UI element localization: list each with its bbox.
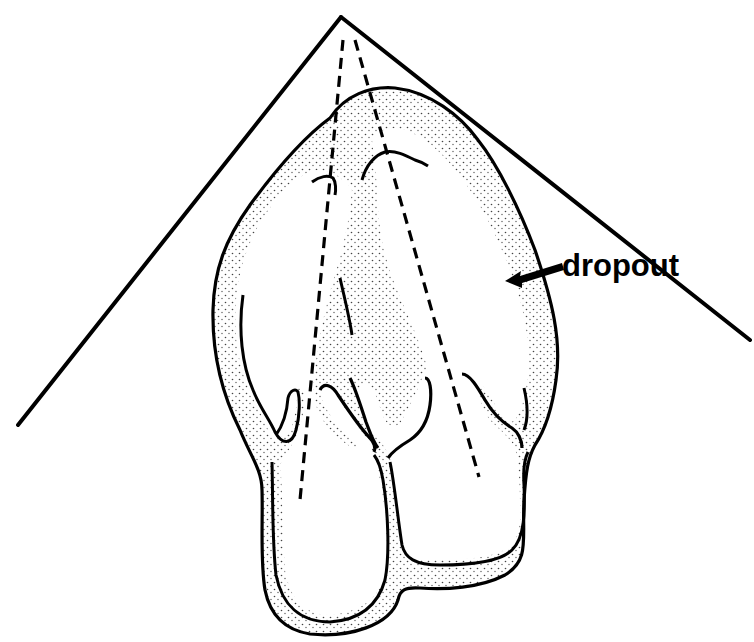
heart-outline: [213, 88, 558, 635]
echo-sector-diagram: dropout: [0, 0, 754, 642]
dropout-label: dropout: [562, 248, 679, 283]
